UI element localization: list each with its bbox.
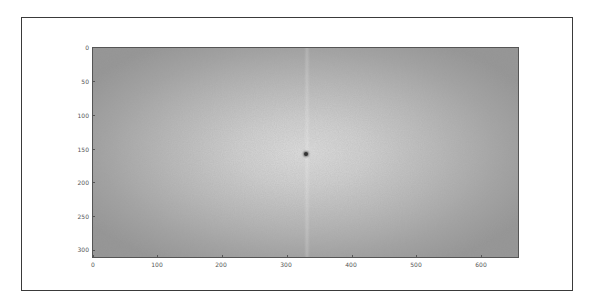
y-tickmark (92, 81, 95, 82)
y-tickmark (92, 115, 95, 116)
y-tick-label: 250 (78, 214, 89, 220)
x-tickmark (222, 255, 223, 258)
x-tickmark (416, 255, 417, 258)
x-tickmark (93, 255, 94, 258)
y-tick-label: 200 (78, 180, 89, 186)
y-tickmark (92, 182, 95, 183)
x-tick-label: 0 (91, 262, 95, 268)
y-tickmark (92, 250, 95, 251)
spectrum-image (92, 47, 519, 258)
x-tick-label: 400 (345, 262, 356, 268)
x-tick-label: 100 (151, 262, 162, 268)
dc-point-marker (304, 152, 308, 156)
x-tick-label: 300 (280, 262, 291, 268)
y-tickmark (92, 216, 95, 217)
x-tick-label: 600 (475, 262, 486, 268)
y-tickmark (92, 149, 95, 150)
y-tick-label: 300 (78, 247, 89, 253)
x-tick-label: 200 (215, 262, 226, 268)
y-tick-label: 100 (78, 113, 89, 119)
x-tickmark (157, 255, 158, 258)
y-tick-label: 150 (78, 147, 89, 153)
x-tick-label: 500 (410, 262, 421, 268)
y-tick-label: 50 (81, 79, 89, 85)
y-tickmark (92, 47, 95, 48)
x-tickmark (352, 255, 353, 258)
y-tick-label: 0 (85, 45, 89, 51)
x-tickmark (287, 255, 288, 258)
x-tickmark (481, 255, 482, 258)
